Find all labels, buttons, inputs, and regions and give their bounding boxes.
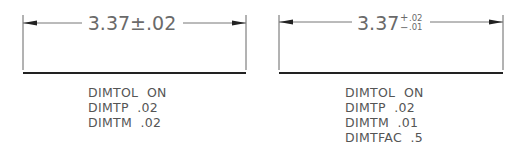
minus-sign: − (400, 22, 408, 33)
setting-dimtol: DIMTOL ON (345, 85, 424, 100)
dimension-base-text: 3.37 (357, 12, 399, 34)
arrowhead-right-icon (232, 21, 246, 26)
setting-dimtm: DIMTM .02 (88, 115, 167, 130)
right-dimension-figure: 3.37 + − .02 .01 (279, 12, 503, 73)
arrowhead-left-icon (23, 21, 37, 26)
left-dimension-figure: 3.37±.02 (23, 12, 246, 73)
setting-dimtfac: DIMTFAC .5 (345, 130, 424, 145)
right-settings-list: DIMTOL ON DIMTP .02 DIMTM .01 DIMTFAC .5 (345, 85, 424, 145)
setting-dimtp: DIMTP .02 (345, 100, 424, 115)
arrowhead-right-icon (489, 20, 503, 25)
setting-dimtm: DIMTM .01 (345, 115, 424, 130)
setting-dimtol: DIMTOL ON (88, 85, 167, 100)
dimension-text: 3.37±.02 (88, 12, 176, 34)
lower-tolerance: .01 (409, 22, 423, 32)
dimension-diagram: 3.37±.02 3.37 + − .02 .01 (0, 0, 513, 155)
setting-dimtp: DIMTP .02 (88, 100, 167, 115)
arrowhead-left-icon (279, 20, 293, 25)
left-settings-list: DIMTOL ON DIMTP .02 DIMTM .02 (88, 85, 167, 130)
